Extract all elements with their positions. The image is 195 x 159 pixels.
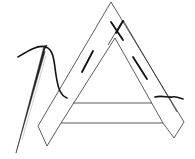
sewing-diagram: Sewing illustration: needle and thread s… xyxy=(0,0,195,159)
running-stitches xyxy=(82,21,147,79)
stitch-left xyxy=(82,51,93,72)
needle xyxy=(16,45,47,153)
needle-highlight xyxy=(22,56,46,140)
needle-body xyxy=(16,45,47,153)
a-frame-inner-outline xyxy=(61,38,163,123)
diagram-svg xyxy=(0,0,195,159)
stitch-top-cross-2 xyxy=(116,21,123,33)
stitch-right xyxy=(133,57,147,79)
